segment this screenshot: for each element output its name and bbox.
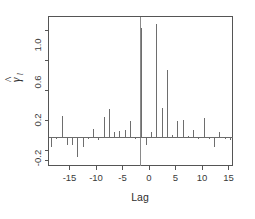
x-axis-tick-labels: -15 -10 -5 0 5 10 15	[63, 172, 234, 183]
y-axis-title-hat: ^	[2, 77, 16, 83]
y-axis-title: γ ^ l	[2, 72, 25, 82]
x-tick-label-2: -10	[89, 172, 103, 183]
y-tick-label-4: -0.2	[32, 150, 43, 166]
x-axis-ticks	[70, 166, 229, 170]
y-axis-ticks	[45, 31, 49, 161]
spike-series	[52, 24, 231, 156]
x-tick-label-5: 5	[173, 172, 178, 183]
x-tick-label-6: 10	[197, 172, 208, 183]
y-tick-label-2: 0.6	[32, 75, 43, 88]
x-tick-label-4: 0	[146, 172, 151, 183]
y-tick-label-3: 0.2	[32, 113, 43, 126]
y-axis-title-subscript: l	[16, 72, 25, 75]
y-axis-tick-labels: 1.0 0.6 0.2 -0.2	[32, 38, 43, 166]
acf-chart: 1.0 0.6 0.2 -0.2 γ ^ l -15 -10 -5 0 5	[0, 0, 255, 219]
x-tick-label-7: 15	[223, 172, 234, 183]
x-axis-title: Lag	[131, 191, 149, 203]
x-tick-label-3: -5	[118, 172, 126, 183]
acf-plot-svg: 1.0 0.6 0.2 -0.2 γ ^ l -15 -10 -5 0 5	[0, 0, 255, 219]
y-tick-label-1: 1.0	[32, 38, 43, 51]
x-tick-label-1: -15	[63, 172, 77, 183]
